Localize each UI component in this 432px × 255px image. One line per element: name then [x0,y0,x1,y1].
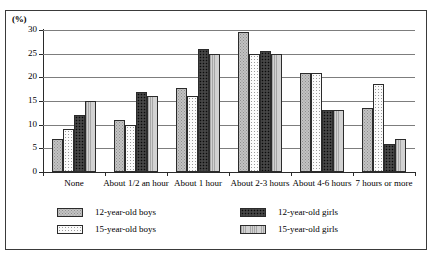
gridline [43,125,415,126]
y-tick-label-wrap: 25 [0,49,37,58]
bar [373,84,384,172]
x-axis-separator [229,172,230,176]
bar [147,96,158,172]
y-tick-label-wrap: 5 [0,143,37,152]
y-tick-label: 20 [3,72,37,81]
bar [260,51,271,172]
bar [362,108,373,172]
y-tick-label: 10 [3,120,37,129]
chart-legend: 12-year-old boys12-year-old girls15-year… [43,207,413,241]
gridline [43,101,415,102]
bar [176,88,187,172]
bar [74,115,85,172]
x-axis-separator [415,172,416,176]
x-axis-separator [291,172,292,176]
gridline [43,77,415,78]
x-axis-separator [105,172,106,176]
gridline [43,30,415,31]
bar [114,120,125,172]
bar [271,54,282,172]
legend-swatch [240,208,266,217]
bar [249,54,260,172]
bar [85,101,96,172]
y-tick-label-wrap: 20 [0,72,37,81]
bar [238,32,249,172]
x-axis-separator [43,172,44,176]
bar [311,73,322,172]
legend-swatch [57,208,83,217]
bar [125,125,136,172]
bar [395,139,406,172]
x-axis-label: 7 hours or more [347,178,421,188]
y-tick-label: 15 [3,96,37,105]
y-axis-unit-label: (%) [12,14,26,24]
y-tick-label-wrap: 10 [0,120,37,129]
legend-label: 12-year-old girls [278,207,338,218]
bar [209,54,220,172]
bar [63,129,74,172]
gridline [43,54,415,55]
bar [322,110,333,172]
gridline [43,148,415,149]
y-tick-label: 30 [3,25,37,34]
bar [187,96,198,172]
y-tick-label: 25 [3,49,37,58]
y-tick-label-wrap: 0 [0,167,37,176]
bar [333,110,344,172]
bar [198,49,209,172]
plot-area [43,30,415,172]
chart-figure: (%) 051015202530 NoneAbout 1/2 an hourAb… [0,0,432,255]
y-tick-label-wrap: 15 [0,96,37,105]
y-tick-label-wrap: 30 [0,25,37,34]
legend-label: 15-year-old girls [278,224,338,235]
y-tick-label: 5 [3,143,37,152]
x-axis-separator [353,172,354,176]
legend-swatch [240,225,266,234]
legend-swatch [57,225,83,234]
legend-label: 12-year-old boys [95,207,156,218]
bar [384,144,395,172]
bar [52,139,63,172]
bar [136,92,147,172]
x-axis-separator [167,172,168,176]
bar [300,73,311,172]
y-tick-label: 0 [3,167,37,176]
legend-label: 15-year-old boys [95,224,156,235]
